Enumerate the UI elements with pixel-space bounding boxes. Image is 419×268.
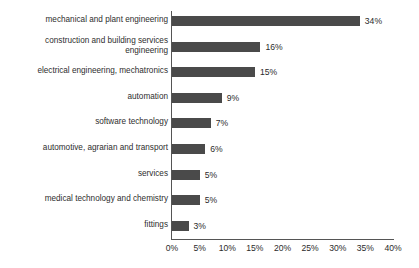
- value-label: 7%: [216, 118, 228, 128]
- bar: [172, 170, 200, 180]
- bar: [172, 67, 255, 77]
- axis-tick-label: 20%: [268, 243, 298, 254]
- axis-tick-label: 5%: [185, 243, 215, 254]
- value-label: 5%: [205, 195, 217, 205]
- value-label: 9%: [227, 93, 239, 103]
- axis-tick-label: 30%: [323, 243, 353, 254]
- bar-row: construction and building services engin…: [0, 35, 419, 61]
- bar-row: services5%: [0, 163, 419, 189]
- value-label: 15%: [260, 67, 277, 77]
- axis-tick-label: 40%: [378, 243, 408, 254]
- bar-row: automotive, agrarian and transport6%: [0, 137, 419, 163]
- bar: [172, 42, 260, 52]
- bar: [172, 118, 211, 128]
- category-label: construction and building services engin…: [8, 36, 168, 57]
- value-label: 5%: [205, 170, 217, 180]
- category-label: automotive, agrarian and transport: [8, 143, 168, 153]
- category-label: automation: [8, 92, 168, 102]
- bar: [172, 195, 200, 205]
- category-label: mechanical and plant engineering: [8, 15, 168, 25]
- category-label: fittings: [8, 220, 168, 230]
- bar-row: automation9%: [0, 86, 419, 112]
- bar-row: fittings3%: [0, 214, 419, 240]
- bar: [172, 93, 222, 103]
- category-label: software technology: [8, 117, 168, 127]
- axis-tick-label: 10%: [212, 243, 242, 254]
- bar-row: medical technology and chemistry5%: [0, 188, 419, 214]
- category-label: electrical engineering, mechatronics: [8, 66, 168, 76]
- bar: [172, 16, 360, 26]
- axis-tick-label: 25%: [295, 243, 325, 254]
- bar: [172, 144, 205, 154]
- axis-tick-label: 35%: [350, 243, 380, 254]
- axis-tick-label: 15%: [240, 243, 270, 254]
- bar-row: mechanical and plant engineering34%: [0, 9, 419, 35]
- value-label: 34%: [365, 16, 382, 26]
- value-label: 16%: [265, 42, 282, 52]
- bar-row: electrical engineering, mechatronics15%: [0, 60, 419, 86]
- axis-tick-label: 0%: [157, 243, 187, 254]
- bar-row: software technology7%: [0, 111, 419, 137]
- bar: [172, 221, 189, 231]
- category-label: medical technology and chemistry: [8, 194, 168, 204]
- bar-chart: mechanical and plant engineering34%const…: [0, 0, 419, 268]
- category-label: services: [8, 169, 168, 179]
- value-label: 3%: [194, 221, 206, 231]
- value-label: 6%: [210, 144, 222, 154]
